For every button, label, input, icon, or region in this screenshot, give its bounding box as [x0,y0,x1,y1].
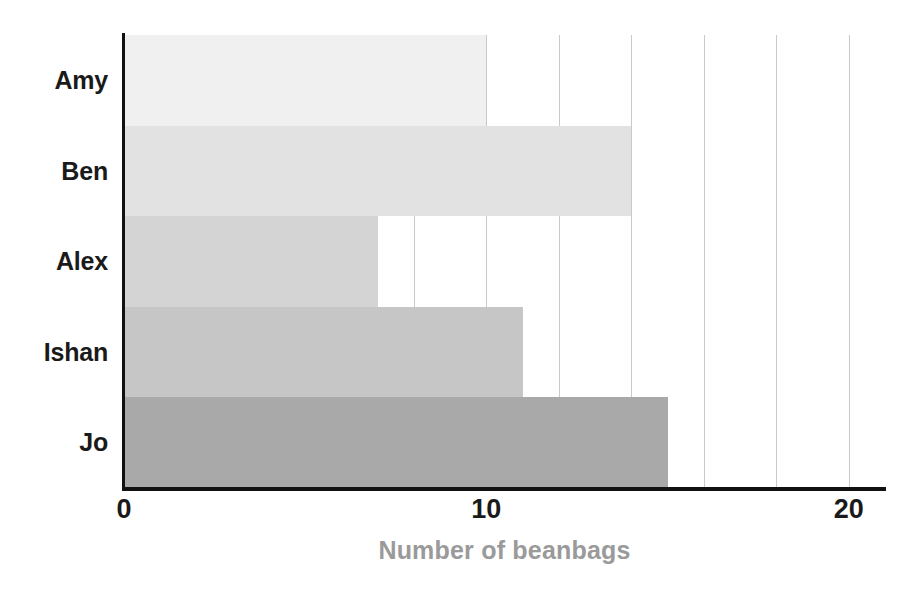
x-axis-line [122,487,886,491]
x-axis-tick-labels: 01020 [0,494,909,534]
plot-area [124,35,885,488]
bar-amy [124,35,486,126]
bar-row [124,35,885,126]
x-axis-title: Number of beanbags [124,536,885,565]
bar-ishan [124,307,523,398]
x-tick-label-20: 20 [809,494,889,525]
bar-row [124,216,885,307]
category-label-ben: Ben [8,126,108,217]
bar-chart: AmyBenAlexIshanJo 01020 Number of beanba… [0,0,909,594]
x-tick-label-10: 10 [446,494,526,525]
x-tick-label-0: 0 [84,494,164,525]
bar-row [124,397,885,488]
category-label-ishan: Ishan [8,307,108,398]
bar-row [124,307,885,398]
category-label-jo: Jo [8,397,108,488]
category-label-amy: Amy [8,35,108,126]
category-label-alex: Alex [8,216,108,307]
bar-ben [124,126,631,217]
category-axis-labels: AmyBenAlexIshanJo [8,35,114,488]
bar-row [124,126,885,217]
bar-jo [124,397,668,488]
bar-alex [124,216,378,307]
y-axis-line [122,33,125,490]
